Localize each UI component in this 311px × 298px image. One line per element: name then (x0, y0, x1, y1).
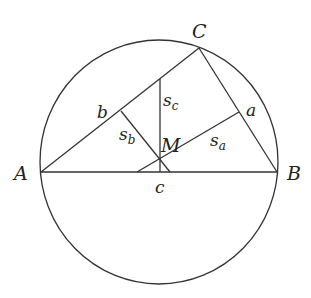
side-label-b: b (97, 102, 108, 122)
side-label-c: c (155, 177, 165, 197)
side-label-a: a (246, 100, 256, 120)
point-label-m: M (160, 134, 181, 156)
vertex-label-a: A (12, 162, 28, 184)
circumcircle (40, 40, 278, 284)
segment-label-s-a: sa (210, 130, 226, 153)
side-a-line (199, 48, 277, 172)
vertex-label-c: C (192, 20, 207, 42)
segment-label-s-c: sc (163, 90, 179, 113)
vertex-label-b: B (286, 162, 301, 184)
triangle-circle-diagram: A B C M b a c sc sb sa (0, 0, 311, 298)
segment-label-s-b: sb (119, 124, 135, 147)
